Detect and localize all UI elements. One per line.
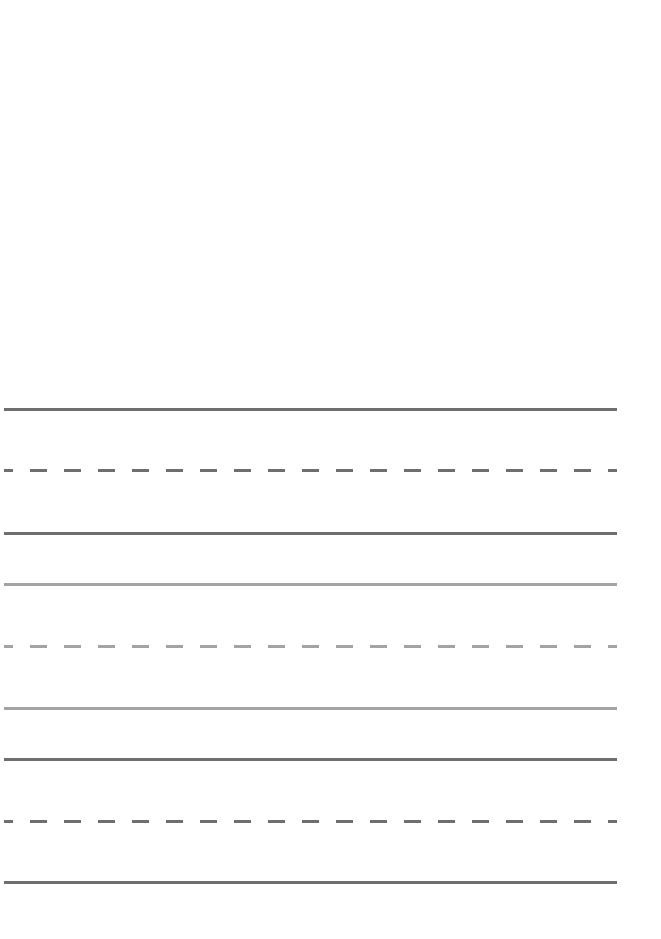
midline-dashed bbox=[4, 469, 617, 472]
base-line bbox=[4, 532, 617, 535]
top-line bbox=[4, 583, 617, 586]
midline-dashed bbox=[4, 645, 617, 648]
midline-dashed bbox=[4, 820, 617, 823]
top-line bbox=[4, 758, 617, 761]
base-line bbox=[4, 707, 617, 710]
practice-sheet bbox=[0, 0, 661, 939]
base-line bbox=[4, 881, 617, 884]
top-line bbox=[4, 408, 617, 411]
blank-header-area bbox=[0, 0, 661, 395]
